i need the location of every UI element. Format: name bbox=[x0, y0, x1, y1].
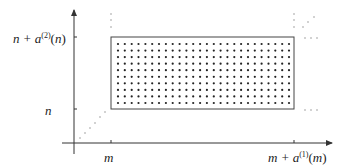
label-sup: (2) bbox=[41, 31, 50, 40]
label-n-plus-a2-n: n + a(2)(n) bbox=[13, 32, 66, 45]
label-base: n + a bbox=[13, 31, 41, 46]
label-n: n bbox=[45, 104, 52, 117]
label-sup: (1) bbox=[299, 150, 308, 159]
lattice-rectangle bbox=[111, 37, 294, 109]
label-base: m + a bbox=[268, 150, 299, 165]
lattice-dots bbox=[117, 43, 290, 104]
label-m-plus-a1-m: m + a(1)(m) bbox=[268, 151, 327, 164]
label-m: m bbox=[104, 151, 113, 164]
diagram-canvas bbox=[0, 0, 348, 167]
